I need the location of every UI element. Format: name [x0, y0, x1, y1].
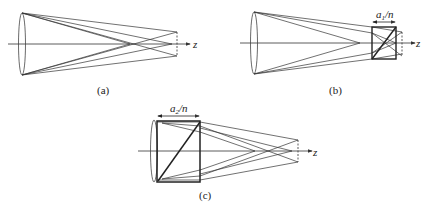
optics-diagram: z (a) a1/n z (b) [0, 0, 424, 211]
axis-label-z: z [312, 146, 318, 158]
panel-b: a1/n z (b) [240, 8, 421, 97]
panel-c: a2/n z (c) [138, 102, 318, 202]
slab-width-label: a2/n [170, 102, 188, 116]
axis-label-z: z [415, 37, 421, 49]
caption-a: (a) [97, 84, 110, 97]
slab-diagonal [158, 122, 200, 181]
axis-label-z: z [192, 38, 198, 50]
caption-b: (b) [329, 84, 342, 97]
slab-width-label: a1/n [376, 8, 394, 22]
panel-a: z (a) [8, 13, 198, 97]
caption-c: (c) [199, 189, 212, 202]
